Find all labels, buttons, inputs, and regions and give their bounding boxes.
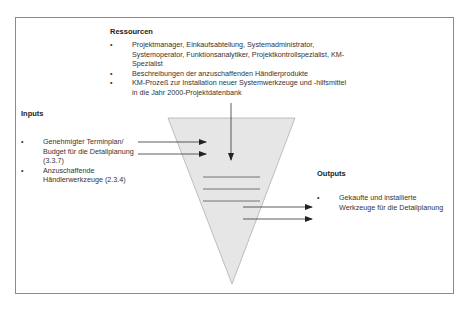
inputs-item: •Anzuschaffende Händlerwerkzeuge (2.3.4) xyxy=(21,166,139,185)
bullet-icon: • xyxy=(110,69,113,79)
resources-list: •Projektmanager, Einkaufsabteilung, Syst… xyxy=(110,40,350,98)
resources-heading: Ressourcen xyxy=(110,27,153,36)
inputs-list: •Genehmigter Terminplan/ Budget für die … xyxy=(21,137,139,185)
inputs-item: •Genehmigter Terminplan/ Budget für die … xyxy=(21,137,139,166)
bullet-icon: • xyxy=(110,40,113,50)
resources-item: •Beschreibungen der anzuschaffenden Händ… xyxy=(110,69,350,79)
outputs-heading: Outputs xyxy=(317,169,346,178)
resources-item: •Projektmanager, Einkaufsabteilung, Syst… xyxy=(110,40,350,69)
bullet-icon: • xyxy=(110,78,113,88)
bullet-icon: • xyxy=(21,137,24,147)
outputs-list: •Gekaufte und installierte Werkzeuge für… xyxy=(317,193,447,212)
bullet-icon: • xyxy=(21,166,24,176)
inputs-heading: Inputs xyxy=(21,109,44,118)
resources-item: •KM-Prozeß zur Installation neuer System… xyxy=(110,78,350,97)
outputs-item: •Gekaufte und installierte Werkzeuge für… xyxy=(317,193,447,212)
bullet-icon: • xyxy=(317,193,320,203)
